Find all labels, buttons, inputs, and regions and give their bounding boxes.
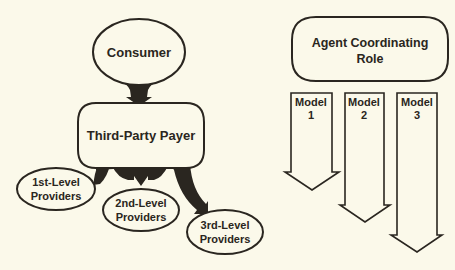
model-1-line1: Model: [295, 96, 327, 108]
consumer-label: Consumer: [107, 45, 171, 60]
provider-node-3rd-level: 3rd-Level Providers: [187, 210, 263, 254]
model-2-arrow: Model 2: [340, 93, 390, 222]
agent-coordinating-role-node: Agent Coordinating Role: [292, 17, 448, 81]
diagram-canvas: Consumer Third-Party Payer 1st-Level Pro…: [0, 0, 455, 270]
model-2-line1: Model: [348, 96, 380, 108]
payer-label: Third-Party Payer: [87, 128, 195, 143]
model-2-line2: 2: [361, 109, 367, 121]
provider-3-line2: Providers: [200, 233, 251, 245]
provider-1-line2: Providers: [31, 190, 82, 202]
provider-node-1st-level: 1st-Level Providers: [17, 168, 95, 210]
agent-label-line1: Agent Coordinating: [312, 36, 429, 50]
model-1-line2: 1: [308, 109, 314, 121]
provider-2-line1: 2nd-Level: [115, 197, 166, 209]
provider-2-line2: Providers: [116, 211, 167, 223]
third-party-payer-node: Third-Party Payer: [78, 103, 204, 168]
model-3-arrow: Model 3: [391, 93, 442, 252]
consumer-node: Consumer: [93, 19, 185, 85]
model-3-line1: Model: [401, 96, 433, 108]
provider-3-line1: 3rd-Level: [201, 219, 250, 231]
provider-node-2nd-level: 2nd-Level Providers: [103, 189, 179, 231]
provider-1-line1: 1st-Level: [32, 176, 80, 188]
model-1-arrow: Model 1: [285, 93, 339, 190]
agent-label-line2: Role: [356, 52, 383, 66]
model-3-line2: 3: [414, 109, 420, 121]
